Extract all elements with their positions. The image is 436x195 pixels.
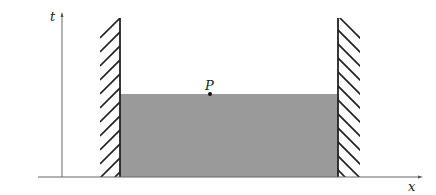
- point-p-label: P: [205, 79, 214, 92]
- diagram-canvas: t x P: [0, 0, 436, 195]
- t-axis-label: t: [50, 10, 55, 23]
- x-axis-label: x: [408, 180, 415, 193]
- x-axis-arrow-icon: [418, 176, 423, 179]
- diagram-svg: [0, 0, 436, 195]
- shaded-region: [120, 94, 338, 177]
- right-wall-hatching: [336, 14, 362, 194]
- t-axis-arrow-icon: [61, 12, 64, 17]
